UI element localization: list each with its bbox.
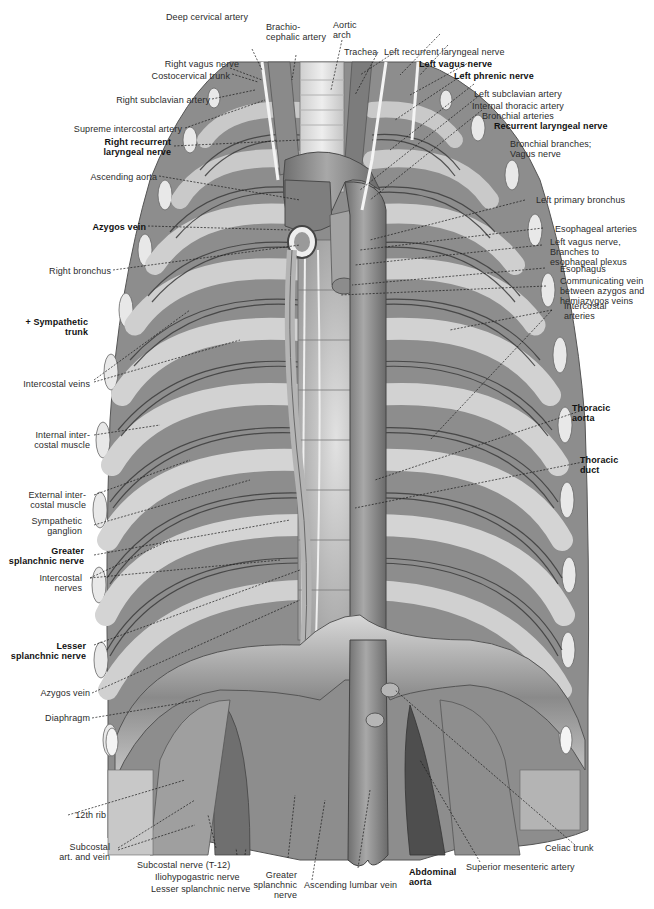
label-brachiocephalic-artery: Brachio- cephalic artery bbox=[266, 22, 326, 42]
label-superior-mesenteric-artery: Superior mesenteric artery bbox=[466, 862, 575, 872]
label-intercostal-veins: Intercostal veins bbox=[23, 379, 90, 389]
celiac-trunk-origin bbox=[381, 683, 399, 697]
label-lesser-splanchnic-nerve-bottom: Lesser splanchnic nerve bbox=[151, 884, 250, 894]
thoracic-wall-illustration bbox=[0, 0, 654, 909]
label-lesser-splanchnic-nerve: Lesser splanchnic nerve bbox=[11, 641, 86, 661]
label-sympathetic-ganglion: Sympathetic ganglion bbox=[31, 516, 82, 536]
label-esophageal-arteries: Esophageal arteries bbox=[555, 224, 637, 234]
label-diaphragm: Diaphragm bbox=[45, 713, 90, 723]
label-thoracic-aorta: Thoracic aorta bbox=[572, 403, 610, 423]
quadratus-left bbox=[108, 770, 153, 855]
label-intercostal-arteries: Intercostal arteries bbox=[564, 301, 607, 321]
label-iliohypogastric-nerve: Iliohypogastric nerve bbox=[155, 872, 240, 882]
label-sympathetic-trunk: + Sympathetic trunk bbox=[25, 317, 88, 337]
label-ascending-lumbar-vein: Ascending lumbar vein bbox=[304, 880, 397, 890]
label-subcostal-art-and-vein: Subcostal art. and vein bbox=[59, 842, 110, 862]
label-left-phrenic-nerve: Left phrenic nerve bbox=[454, 71, 534, 81]
label-intercostal-nerves: Intercostal nerves bbox=[39, 573, 82, 593]
label-external-intercostal-muscle: External inter- costal muscle bbox=[28, 490, 86, 510]
thoracic-aorta bbox=[345, 182, 386, 640]
superior-mesenteric-origin bbox=[366, 713, 384, 727]
label-esophagus: Esophagus bbox=[560, 264, 606, 274]
label-deep-cervical-artery: Deep cervical artery bbox=[166, 12, 248, 22]
label-ascending-aorta: Ascending aorta bbox=[90, 172, 157, 182]
label-subcostal-nerve: Subcostal nerve (T-12) bbox=[137, 860, 230, 870]
label-recurrent-laryngeal-nerve: Recurrent laryngeal nerve bbox=[494, 121, 608, 131]
label-internal-thoracic-artery: Internal thoracic artery bbox=[472, 101, 564, 111]
label-internal-intercostal-muscle: Internal inter- costal muscle bbox=[34, 430, 90, 450]
label-greater-splanchnic-nerve-bottom: Greater splanchnic nerve bbox=[253, 870, 297, 900]
label-thoracic-duct: Thoracic duct bbox=[580, 455, 618, 475]
abdominal-aorta bbox=[348, 640, 388, 866]
label-abdominal-aorta: Abdominal aorta bbox=[409, 867, 456, 887]
label-left-vagus-esophageal-plexus: Left vagus nerve, Branches to esophageal… bbox=[550, 237, 627, 267]
label-left-vagus-nerve: Left vagus nerve bbox=[419, 59, 492, 69]
ascending-aorta bbox=[285, 180, 332, 232]
label-azygos-vein-lower: Azygos vein bbox=[40, 688, 90, 698]
label-aortic-arch: Aortic arch bbox=[333, 20, 357, 40]
label-costocervical-trunk: Costocervical trunk bbox=[152, 71, 230, 81]
label-azygos-vein-upper: Azygos vein bbox=[92, 222, 146, 232]
quadratus-right bbox=[520, 770, 580, 830]
label-right-subclavian-artery: Right subclavian artery bbox=[116, 95, 210, 105]
label-bronchial-arteries: Bronchial arteries bbox=[482, 111, 554, 121]
label-right-recurrent-laryngeal-nerve: Right recurrent laryngeal nerve bbox=[103, 137, 171, 157]
label-greater-splanchnic-nerve: Greater splanchnic nerve bbox=[9, 546, 84, 566]
left-lateral-ring bbox=[106, 728, 118, 756]
label-right-vagus-nerve: Right vagus nerve bbox=[165, 59, 239, 69]
label-12th-rib: 12th rib bbox=[75, 810, 106, 820]
right-lateral-ring bbox=[560, 726, 572, 754]
label-left-subclavian-artery: Left subclavian artery bbox=[474, 89, 562, 99]
label-celiac-trunk: Celiac trunk bbox=[545, 843, 594, 853]
label-right-bronchus: Right bronchus bbox=[49, 266, 111, 276]
label-supreme-intercostal-artery: Supreme intercostal artery bbox=[74, 124, 182, 134]
label-trachea: Trachea bbox=[344, 47, 377, 57]
label-bronchial-branches-vagus: Bronchial branches; Vagus nerve bbox=[510, 139, 591, 159]
label-left-primary-bronchus: Left primary bronchus bbox=[536, 195, 625, 205]
label-left-recurrent-laryngeal-nerve: Left recurrent laryngeal nerve bbox=[384, 47, 505, 57]
